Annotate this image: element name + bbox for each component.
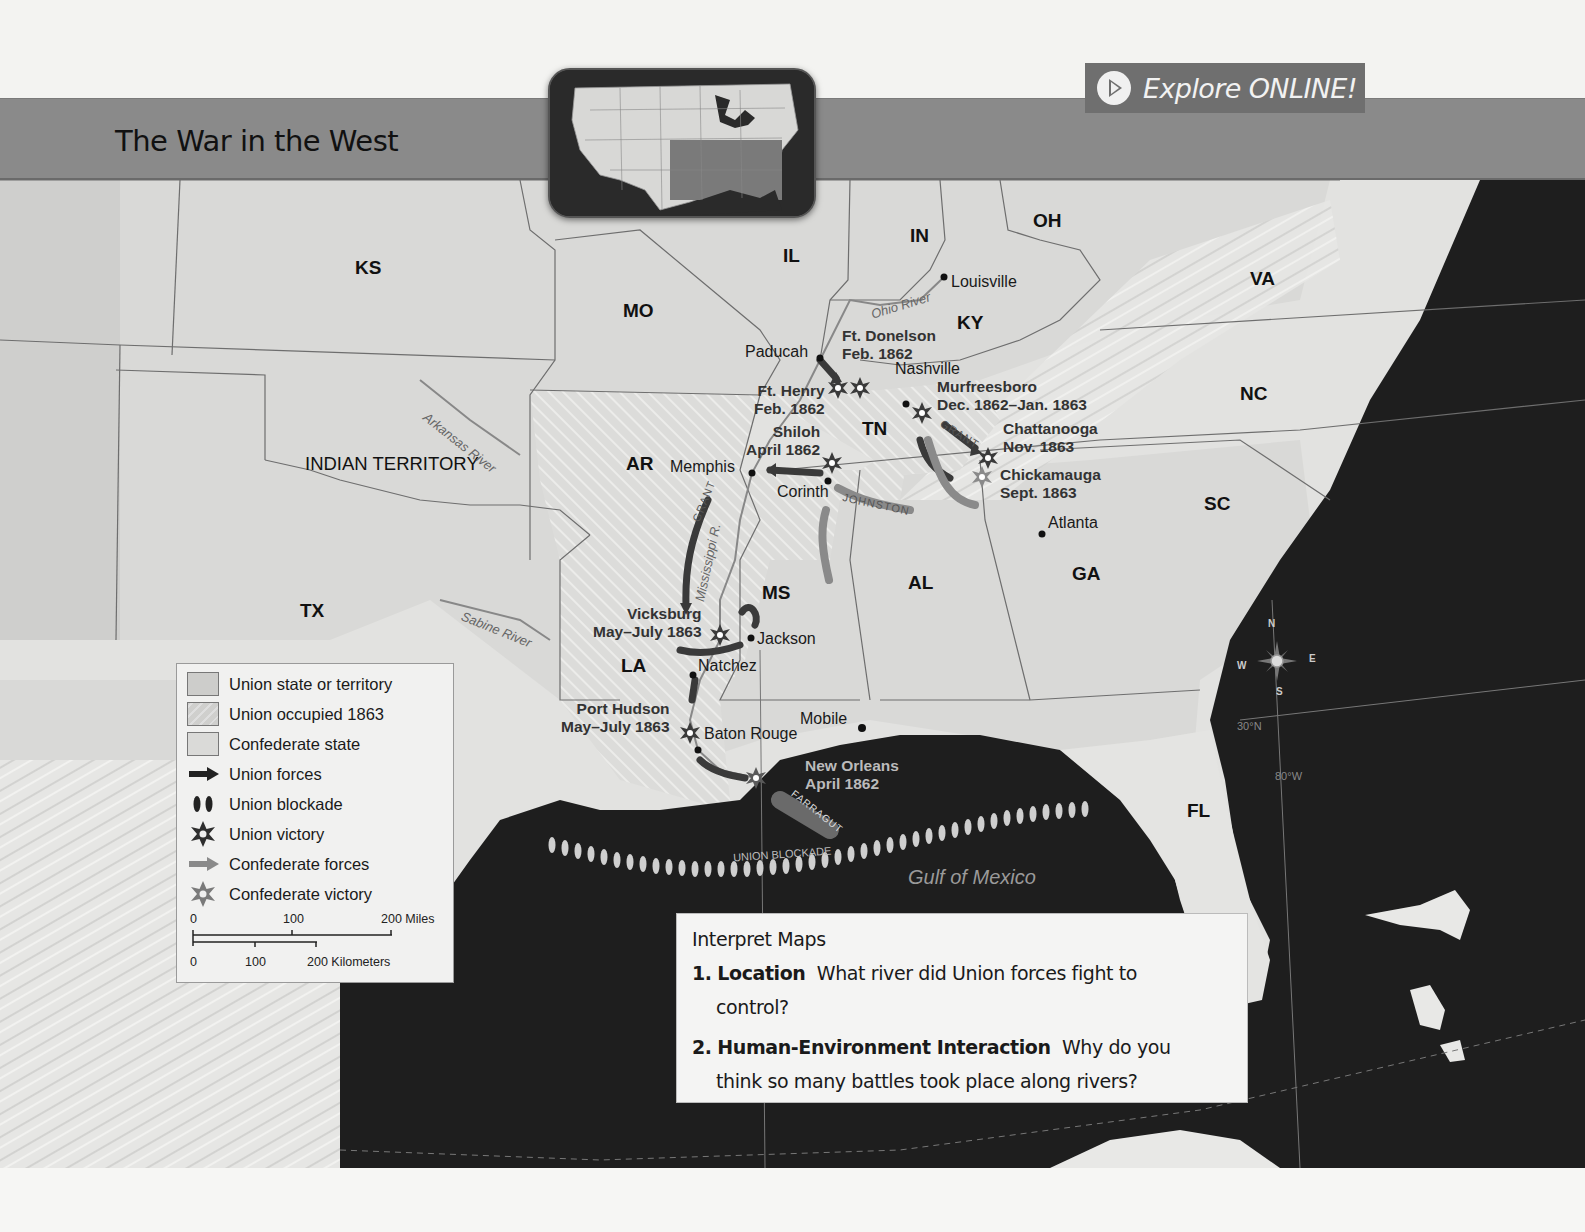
explore-online-button[interactable]: Explore ONLINE! [1085,63,1365,113]
battle-date: May–July 1863 [593,623,702,641]
state-label-va: VA [1250,268,1275,290]
city-label-jackson: Jackson [757,630,816,648]
state-label-in: IN [910,225,929,247]
state-label-fl: FL [1187,800,1210,822]
bottom-margin [0,1168,1585,1232]
locator-inset-map [548,68,816,218]
question-number: 2. [692,1036,712,1058]
state-label-al: AL [908,572,933,594]
question-text-continued: control? [692,990,1242,1024]
legend-label: Confederate state [229,735,360,754]
legend-item-confederate-victory: Confederate victory [187,881,372,907]
legend-item-confederate-state: Confederate state [187,731,360,757]
city-label-atlanta: Atlanta [1048,514,1098,532]
city-label-memphis: Memphis [670,458,735,476]
legend-label: Union forces [229,765,322,784]
union-blockade-icon [187,792,219,816]
city-label-louisville: Louisville [951,273,1017,291]
water-label-gulf-of-mexico: Gulf of Mexico [908,866,1036,889]
battle-date: Sept. 1863 [1000,484,1101,502]
battle-date: April 1862 [746,441,820,459]
battle-name: Ft. Henry [754,382,825,400]
state-label-ks: KS [355,257,381,279]
battle-name: Shiloh [746,423,820,441]
legend-label: Union state or territory [229,675,392,694]
battle-name: Murfreesboro [937,378,1087,396]
question-2: 2. Human-Environment Interaction Why do … [692,1030,1242,1098]
legend-label: Union blockade [229,795,343,814]
state-label-la: LA [621,655,646,677]
battle-label-murfreesboro: Murfreesboro Dec. 1862–Jan. 1863 [937,378,1087,414]
play-icon [1097,71,1131,105]
battle-label-shiloh: Shiloh April 1862 [746,423,820,459]
state-label-mo: MO [623,300,654,322]
battle-date: Feb. 1862 [842,345,936,363]
question-topic: Human-Environment Interaction [717,1036,1050,1058]
scale-km-100: 100 [245,955,266,969]
battle-name: Chattanooga [1003,420,1098,438]
city-label-natchez: Natchez [698,657,757,675]
battle-label-ft-donelson: Ft. Donelson Feb. 1862 [842,327,936,363]
question-1: 1. Location What river did Union forces … [692,956,1242,1024]
battle-label-vicksburg: Vicksburg May–July 1863 [593,605,702,641]
battle-label-new-orleans: New Orleans April 1862 [805,757,899,793]
city-label-mobile: Mobile [800,710,847,728]
battle-date: May–July 1863 [561,718,670,736]
battle-date: Nov. 1863 [1003,438,1098,456]
legend-item-union-forces: Union forces [187,761,322,787]
union-occupied-swatch [187,702,219,726]
confederate-forces-arrow-icon [187,852,219,876]
state-label-tn: TN [862,418,887,440]
interpret-maps-title: Interpret Maps [692,928,826,950]
union-arrow-memphis [770,470,820,473]
battle-name: Ft. Donelson [842,327,936,345]
state-label-ms: MS [762,582,791,604]
map-title: The War in the West [115,124,398,158]
legend-label: Union occupied 1863 [229,705,384,724]
legend-label: Confederate forces [229,855,369,874]
battle-label-chattanooga: Chattanooga Nov. 1863 [1003,420,1098,456]
graticule-label-30n: 30°N [1237,720,1262,732]
scale-miles-100: 100 [283,912,304,926]
state-label-nc: NC [1240,383,1267,405]
question-text: What river did Union forces fight to [817,962,1137,984]
legend-item-union-occupied: Union occupied 1863 [187,701,384,727]
state-label-sc: SC [1204,493,1230,515]
city-label-paducah: Paducah [745,343,808,361]
compass-north-label: N [1268,618,1275,629]
union-state-swatch [187,672,219,696]
question-topic: Location [717,962,805,984]
compass-south-label: S [1276,686,1283,697]
battle-name: New Orleans [805,757,899,775]
union-forces-arrow-icon [187,762,219,786]
territory-label-indian: INDIAN TERRITORY [305,453,479,475]
legend-item-union-victory: Union victory [187,821,324,847]
state-label-il: IL [783,245,800,267]
map-legend: Union state or territory Union occupied … [176,663,454,983]
question-number: 1. [692,962,712,984]
scale-miles-0: 0 [190,912,197,926]
question-text-continued: think so many battles took place along r… [692,1064,1242,1098]
city-label-baton-rouge: Baton Rouge [704,725,797,743]
battle-date: Dec. 1862–Jan. 1863 [937,396,1087,414]
state-label-ky: KY [957,312,983,334]
battle-date: Feb. 1862 [754,400,825,418]
legend-item-union-blockade: Union blockade [187,791,343,817]
scale-miles-200: 200 Miles [381,912,435,926]
state-label-ar: AR [626,453,653,475]
legend-item-union-state: Union state or territory [187,671,392,697]
confederate-state-swatch [187,732,219,756]
scale-km-200: 200 Kilometers [307,955,390,969]
compass-east-label: E [1309,653,1316,664]
legend-label: Confederate victory [229,885,372,904]
confederate-victory-star-icon [187,882,219,906]
union-victory-star-icon [187,822,219,846]
graticule-label-80w: 80°W [1275,770,1302,782]
scale-km-0: 0 [190,955,197,969]
interpret-maps-box: Interpret Maps 1. Location What river di… [676,913,1248,1103]
battle-label-port-hudson: Port Hudson May–July 1863 [561,700,670,736]
state-label-tx: TX [300,600,324,622]
battle-name: Vicksburg [593,605,702,623]
battle-name: Chickamauga [1000,466,1101,484]
question-text: Why do you [1062,1036,1171,1058]
